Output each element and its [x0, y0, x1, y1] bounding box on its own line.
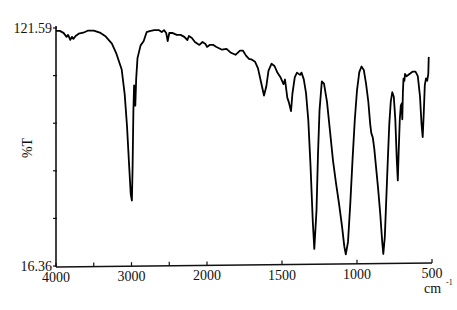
- x-tick-label-3000: 3000: [118, 269, 146, 284]
- x-axis-unit-sup: -1: [446, 278, 453, 287]
- axes: 40003000200015001000500 121.5916.36: [14, 21, 443, 285]
- y-tick-label-121.59: 121.59: [14, 21, 53, 36]
- spectrum-line: [56, 30, 429, 254]
- x-tick-label-1500: 1500: [268, 268, 296, 283]
- x-axis-line: [56, 263, 432, 267]
- y-tick-label-16.36: 16.36: [21, 259, 53, 274]
- x-tick-label-2000: 2000: [193, 268, 221, 283]
- x-tick-label-500: 500: [422, 266, 443, 281]
- x-tick-labels: 40003000200015001000500: [42, 266, 443, 285]
- ir-spectrum-chart: 40003000200015001000500 121.5916.36 %T c…: [0, 0, 457, 310]
- y-axis-title: %T: [20, 137, 35, 158]
- x-tick-label-1000: 1000: [343, 267, 371, 282]
- x-axis-unit-main: cm: [424, 281, 441, 296]
